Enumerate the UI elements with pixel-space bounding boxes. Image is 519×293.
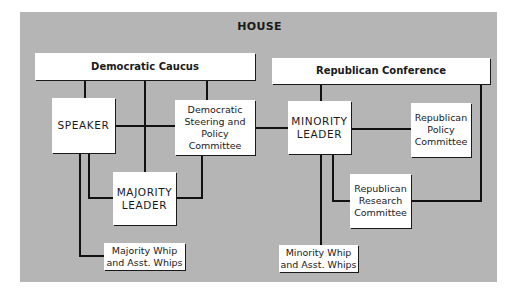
connector-steering-minleader — [255, 127, 288, 129]
connector-conference-minleader — [320, 84, 322, 101]
speaker-box: SPEAKER — [52, 98, 115, 153]
democratic-caucus-box: Democratic Caucus — [35, 53, 255, 80]
connector-minleader-whip — [320, 154, 322, 245]
connector-steering-majleader-h — [176, 197, 203, 199]
connector-conference-research — [480, 84, 482, 202]
connector-speaker-majleader-h — [88, 197, 113, 199]
connector-speaker-majleader — [88, 153, 90, 199]
connector-conference-research-h — [411, 200, 482, 202]
democratic-steering-committee-box: Democratic Steering and Policy Committee — [175, 100, 255, 155]
republican-policy-committee-box: Republican Policy Committee — [411, 103, 471, 157]
diagram-title: HOUSE — [0, 20, 519, 33]
republican-conference-box: Republican Conference — [272, 58, 490, 84]
minority-leader-box: MINORITY LEADER — [288, 101, 351, 154]
republican-research-committee-box: Republican Research Committee — [350, 174, 411, 228]
connector-caucus-speaker — [84, 80, 86, 98]
minority-whip-box: Minority Whip and Asst. Whips — [279, 245, 358, 272]
majority-whip-box: Majority Whip and Asst. Whips — [104, 243, 185, 270]
connector-minleader-research — [332, 154, 334, 202]
majority-leader-box: MAJORITY LEADER — [113, 172, 176, 225]
connector-speaker-steering — [115, 125, 175, 127]
connector-minleader-policy — [351, 128, 411, 130]
connector-minleader-research-h — [332, 200, 350, 202]
connector-speaker-whip-h — [79, 255, 104, 257]
connector-steering-majleader — [201, 155, 203, 199]
connector-speaker-whip — [79, 153, 81, 257]
connector-caucus-steering — [206, 80, 208, 100]
